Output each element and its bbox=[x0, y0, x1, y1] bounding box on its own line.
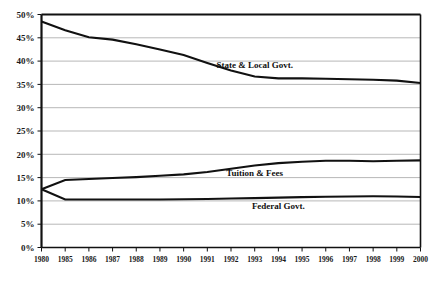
y-axis-tick-label: 45% bbox=[17, 33, 35, 43]
chart-container: 0%5%10%15%20%25%30%35%40%45%50% 19801985… bbox=[0, 0, 442, 284]
y-axis-tick-label: 30% bbox=[17, 103, 35, 113]
y-axis-tick-label: 50% bbox=[17, 10, 35, 20]
x-axis-tick-label: 1986 bbox=[81, 255, 96, 264]
federal-govt-label: Federal Govt. bbox=[252, 201, 305, 211]
line-chart: 0%5%10%15%20%25%30%35%40%45%50% 19801985… bbox=[0, 0, 442, 284]
y-axis-tick-label: 35% bbox=[17, 80, 35, 90]
x-axis-tick-label: 1995 bbox=[295, 255, 310, 264]
x-axis-tick-label: 1994 bbox=[271, 255, 286, 264]
y-axis-tick-label: 20% bbox=[17, 150, 35, 160]
x-axis-tick-label: 1993 bbox=[247, 255, 262, 264]
x-axis-tick-label: 1987 bbox=[105, 255, 120, 264]
x-axis-tick-label: 1999 bbox=[389, 255, 404, 264]
x-axis-tick-label: 2000 bbox=[413, 255, 428, 264]
x-axis-tick-label: 1989 bbox=[152, 255, 167, 264]
y-axis-tick-label: 10% bbox=[17, 196, 35, 206]
x-axis-labels-group: 1980198519861987198819891990199119921993… bbox=[34, 255, 428, 264]
x-axis-tick-label: 1985 bbox=[58, 255, 73, 264]
state-local-label: State & Local Govt. bbox=[216, 60, 293, 70]
y-axis-tick-label: 15% bbox=[17, 173, 35, 183]
x-axis-tick-label: 1996 bbox=[318, 255, 333, 264]
x-axis-tick-label: 1980 bbox=[34, 255, 49, 264]
x-axis-tick-label: 1992 bbox=[224, 255, 239, 264]
y-axis-tick-label: 25% bbox=[17, 126, 35, 136]
y-axis-tick-label: 0% bbox=[21, 243, 35, 253]
x-axis-tick-label: 1988 bbox=[129, 255, 144, 264]
y-axis-tick-label: 5% bbox=[21, 219, 35, 229]
x-axis-tick-label: 1991 bbox=[200, 255, 215, 264]
chart-background bbox=[0, 0, 442, 284]
x-axis-tick-label: 1998 bbox=[366, 255, 381, 264]
x-axis-tick-label: 1997 bbox=[342, 255, 357, 264]
x-axis-tick-label: 1990 bbox=[176, 255, 191, 264]
tuition-fees-label: Tuition & Fees bbox=[226, 168, 283, 178]
y-axis-tick-label: 40% bbox=[17, 56, 35, 66]
